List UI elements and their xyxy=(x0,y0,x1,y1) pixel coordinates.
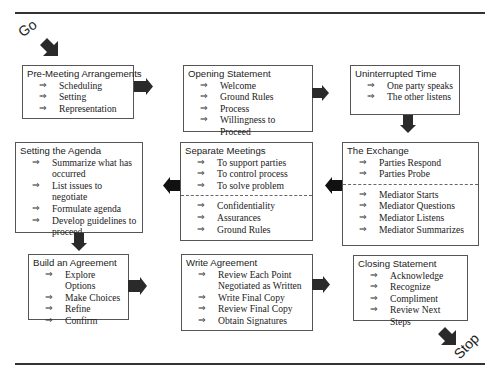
bottom-rule xyxy=(15,363,485,365)
double-arrow-icon: ⇒ xyxy=(200,114,220,137)
list-item: ⇒Mediator Summarizes xyxy=(347,224,474,236)
down-arrow-icon xyxy=(400,115,416,133)
list-item: ⇒Confirm xyxy=(33,315,124,327)
list-item: ⇒Mediator Questions xyxy=(347,200,474,212)
left-arrow-icon xyxy=(325,177,343,194)
double-arrow-icon: ⇒ xyxy=(45,292,65,304)
list-item: ⇒Ground Rules xyxy=(188,91,308,103)
double-arrow-icon: ⇒ xyxy=(197,157,217,169)
list-item: ⇒Recognize xyxy=(358,281,463,293)
list-item: ⇒Welcome xyxy=(188,80,308,92)
list-item: ⇒Develop guidelines to xyxy=(20,215,138,227)
list-item: ⇒Parties Probe xyxy=(347,168,474,180)
double-arrow-icon: ⇒ xyxy=(45,269,65,292)
list-item: ⇒Make Choices xyxy=(33,292,124,304)
list-item: ⇒To solve problem xyxy=(185,180,308,192)
pre-meeting-title: Pre-Meeting Arrangements xyxy=(27,68,129,80)
double-arrow-icon: ⇒ xyxy=(200,91,220,103)
double-arrow-icon: ⇒ xyxy=(370,270,390,282)
uninterrupted-time-box: Uninterrupted Time ⇒One party speaks ⇒Th… xyxy=(350,65,460,115)
double-arrow-icon: ⇒ xyxy=(370,293,390,305)
double-arrow-icon: ⇒ xyxy=(39,80,59,92)
list-item: ⇒Mediator Starts xyxy=(347,189,474,201)
list-item: ⇒Willingness to Proceed xyxy=(188,114,308,137)
list-item: ⇒Ground Rules xyxy=(185,224,308,236)
list-item: ⇒Assurances xyxy=(185,212,308,224)
double-arrow-icon: ⇒ xyxy=(359,224,379,236)
double-arrow-icon: ⇒ xyxy=(45,315,65,327)
right-arrow-icon xyxy=(128,277,147,295)
double-arrow-icon: ⇒ xyxy=(32,215,52,227)
list-item: ⇒Write Final Copy xyxy=(186,292,308,304)
list-item: ⇒Review Final Copy xyxy=(186,303,308,315)
list-item: ⇒Formulate agenda xyxy=(20,203,138,215)
go-arrow-icon xyxy=(38,36,62,60)
double-arrow-icon: ⇒ xyxy=(359,200,379,212)
double-arrow-icon: ⇒ xyxy=(39,103,59,115)
pre-meeting-box: Pre-Meeting Arrangements ⇒Scheduling ⇒Se… xyxy=(22,65,134,119)
double-arrow-icon: ⇒ xyxy=(367,91,387,103)
list-item: ⇒One party speaks xyxy=(355,80,455,92)
double-arrow-icon: ⇒ xyxy=(359,168,379,180)
double-arrow-icon: ⇒ xyxy=(200,103,220,115)
list-item: ⇒Setting xyxy=(27,91,129,103)
down-arrow-icon xyxy=(71,233,87,251)
list-item: ⇒Acknowledge xyxy=(358,270,463,282)
double-arrow-icon: ⇒ xyxy=(359,189,379,201)
list-item: ⇒Refine xyxy=(33,303,124,315)
go-label: Go xyxy=(15,16,39,40)
right-arrow-icon xyxy=(312,276,330,293)
double-arrow-icon: ⇒ xyxy=(39,91,59,103)
left-arrow-icon xyxy=(163,177,181,194)
double-arrow-icon: ⇒ xyxy=(200,80,220,92)
write-agreement-box: Write Agreement ⇒Review Each Point Negot… xyxy=(181,254,313,331)
top-rule xyxy=(15,12,485,14)
list-item: ⇒To control process xyxy=(185,168,308,180)
double-arrow-icon: ⇒ xyxy=(197,212,217,224)
list-item: ⇒Review Each Point xyxy=(186,269,308,281)
double-arrow-icon: ⇒ xyxy=(32,157,52,169)
list-item: ⇒Obtain Signatures xyxy=(186,315,308,327)
double-arrow-icon: ⇒ xyxy=(198,269,218,281)
list-item: ⇒Scheduling xyxy=(27,80,129,92)
dashed-divider xyxy=(343,184,478,185)
double-arrow-icon: ⇒ xyxy=(198,315,218,327)
double-arrow-icon: ⇒ xyxy=(197,180,217,192)
double-arrow-icon: ⇒ xyxy=(359,212,379,224)
double-arrow-icon: ⇒ xyxy=(32,180,52,203)
exchange-box: The Exchange ⇒Parties Respond ⇒Parties P… xyxy=(342,142,479,246)
list-item: ⇒Summarize what has xyxy=(20,157,138,169)
right-arrow-icon xyxy=(134,78,153,95)
double-arrow-icon: ⇒ xyxy=(197,224,217,236)
list-item: ⇒To support parties xyxy=(185,157,308,169)
list-item: ⇒List issues to negotiate xyxy=(20,180,138,203)
double-arrow-icon: ⇒ xyxy=(32,203,52,215)
double-arrow-icon: ⇒ xyxy=(367,80,387,92)
double-arrow-icon: ⇒ xyxy=(370,281,390,293)
list-item: ⇒Representation xyxy=(27,103,129,115)
double-arrow-icon: ⇒ xyxy=(359,157,379,169)
double-arrow-icon: ⇒ xyxy=(197,168,217,180)
list-item: ⇒Explore Options xyxy=(33,269,124,292)
separate-meetings-box: Separate Meetings ⇒To support parties ⇒T… xyxy=(180,142,313,241)
double-arrow-icon: ⇒ xyxy=(45,303,65,315)
closing-statement-box: Closing Statement ⇒Acknowledge ⇒Recogniz… xyxy=(353,255,468,321)
dashed-divider xyxy=(181,195,312,196)
setting-agenda-box: Setting the Agenda ⇒Summarize what has o… xyxy=(15,142,143,233)
double-arrow-icon: ⇒ xyxy=(370,304,390,327)
list-item: ⇒The other listens xyxy=(355,91,455,103)
list-item: ⇒Compliment xyxy=(358,293,463,305)
list-item: ⇒Confidentiality xyxy=(185,200,308,212)
right-arrow-icon xyxy=(312,85,329,101)
list-item: ⇒Process xyxy=(188,103,308,115)
double-arrow-icon: ⇒ xyxy=(198,292,218,304)
double-arrow-icon: ⇒ xyxy=(198,303,218,315)
list-item: ⇒Parties Respond xyxy=(347,157,474,169)
double-arrow-icon: ⇒ xyxy=(197,200,217,212)
list-item: ⇒Mediator Listens xyxy=(347,212,474,224)
build-agreement-box: Build an Agreement ⇒Explore Options ⇒Mak… xyxy=(28,254,129,320)
opening-statement-box: Opening Statement ⇒Welcome ⇒Ground Rules… xyxy=(183,65,313,132)
